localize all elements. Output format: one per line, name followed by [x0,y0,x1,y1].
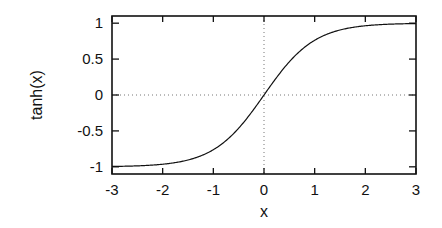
y-tick-label: 1 [95,14,103,31]
x-tick-label: 2 [361,181,369,198]
y-tick-label: -1 [90,158,103,175]
x-tick-label: -2 [156,181,169,198]
x-tick-label: 0 [260,181,268,198]
x-tick-label: 1 [310,181,318,198]
x-tick-label: 3 [412,181,420,198]
tanh-chart: -3-2-1012310.50-0.5-1 x tanh(x) [0,0,442,228]
x-tick-label: -3 [105,181,118,198]
y-tick-label: 0 [95,86,103,103]
x-axis-label: x [260,203,268,220]
y-tick-label: -0.5 [77,122,103,139]
y-tick-label: 0.5 [82,50,103,67]
x-tick-label: -1 [207,181,220,198]
y-axis-label: tanh(x) [28,70,45,120]
